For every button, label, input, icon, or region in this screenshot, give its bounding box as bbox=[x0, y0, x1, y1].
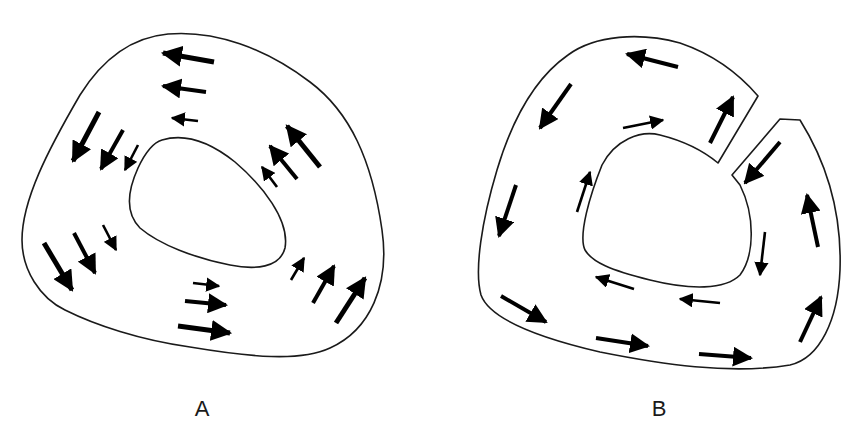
panel-b-arrows bbox=[499, 54, 821, 358]
flow-arrow-icon bbox=[262, 167, 277, 187]
flow-arrow-icon bbox=[73, 112, 99, 161]
panel-b bbox=[478, 37, 840, 369]
flow-arrow-icon bbox=[680, 299, 720, 303]
flow-arrow-icon bbox=[596, 338, 648, 346]
flow-arrow-icon bbox=[291, 258, 304, 280]
flow-arrow-icon bbox=[336, 278, 365, 323]
flow-arrow-icon bbox=[745, 142, 780, 183]
flow-arrow-icon bbox=[103, 225, 116, 250]
flow-arrow-icon bbox=[163, 53, 214, 62]
flow-arrow-icon bbox=[710, 97, 733, 143]
flow-arrow-icon bbox=[172, 118, 198, 121]
flow-arrow-icon bbox=[800, 297, 821, 342]
flow-arrow-icon bbox=[270, 146, 297, 179]
panel-b-label: B bbox=[652, 396, 667, 422]
diagram-canvas bbox=[0, 0, 859, 442]
panel-b-outer-wall bbox=[478, 37, 840, 369]
panel-a-outer-wall bbox=[22, 33, 384, 356]
flow-arrow-icon bbox=[807, 195, 818, 247]
flow-arrow-icon bbox=[44, 243, 72, 290]
flow-arrow-icon bbox=[193, 283, 219, 286]
flow-arrow-icon bbox=[501, 296, 546, 322]
flow-arrow-icon bbox=[760, 232, 765, 275]
flow-arrow-icon bbox=[74, 233, 95, 273]
flow-arrow-icon bbox=[178, 326, 230, 333]
panel-a bbox=[22, 33, 384, 356]
flow-arrow-icon bbox=[596, 277, 634, 289]
flow-arrow-icon bbox=[623, 120, 663, 128]
flow-arrow-icon bbox=[627, 54, 678, 67]
flow-arrow-icon bbox=[540, 84, 571, 128]
flow-arrow-icon bbox=[125, 145, 138, 170]
panel-a-inner-wall bbox=[130, 138, 286, 268]
flow-arrow-icon bbox=[499, 185, 516, 236]
panel-a-label: A bbox=[195, 396, 210, 422]
flow-arrow-icon bbox=[313, 266, 334, 303]
flow-arrow-icon bbox=[101, 130, 123, 169]
flow-arrow-icon bbox=[163, 86, 206, 92]
panel-a-arrows bbox=[44, 53, 365, 333]
flow-arrow-icon bbox=[287, 126, 320, 167]
flow-arrow-icon bbox=[185, 301, 226, 305]
flow-arrow-icon bbox=[699, 354, 751, 358]
